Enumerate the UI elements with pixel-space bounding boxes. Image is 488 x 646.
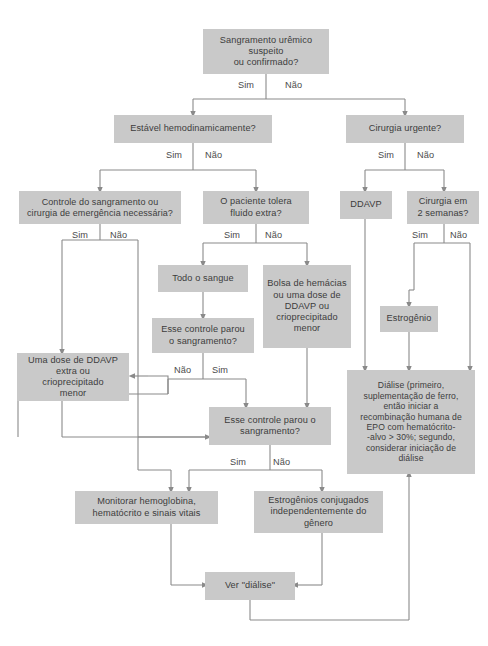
edge-label-cirurgia-sim: Sim <box>378 150 394 160</box>
node-estavel-hemodinamicamente: Estável hemodinamicamente? <box>114 115 272 143</box>
edge-label-controle-nao: Não <box>110 230 127 240</box>
node-cirurgia-2-semanas: Cirurgia em 2 semanas? <box>407 191 479 224</box>
edge-label-estavel-nao: Não <box>205 150 222 160</box>
flowchart-canvas: Sangramento urêmico suspeito ou confirma… <box>0 0 488 646</box>
edge-label-semanas-nao: Não <box>450 230 467 240</box>
edge-label-start-sim: Sim <box>238 80 254 90</box>
edge-label-start-nao: Não <box>285 80 302 90</box>
node-monitorar-hemoglobina: Monitorar hemoglobina, hematócrito e sin… <box>75 491 218 524</box>
edge-label-semanas-sim: Sim <box>412 230 428 240</box>
edge-label-esse2-sim: Sim <box>230 457 246 467</box>
node-cirurgia-urgente: Cirurgia urgente? <box>346 115 464 143</box>
node-tolera-fluido: O paciente tolera fluido extra? <box>203 191 309 224</box>
node-start: Sangramento urêmico suspeito ou confirma… <box>203 29 329 74</box>
edge-label-esse1-sim: Sim <box>212 365 228 375</box>
edge-label-controle-sim: Sim <box>72 230 88 240</box>
edge-label-esse1-nao: Não <box>174 365 191 375</box>
node-esse-controle-parou-2: Esse controle parou o sangramento? <box>209 407 331 445</box>
edge-label-esse2-nao: Não <box>273 457 290 467</box>
node-dialise-detalhada: Diálise (primeiro, suplementação de ferr… <box>347 370 475 474</box>
node-estrogenio: Estrogênio <box>380 306 438 332</box>
edge-label-tolera-nao: Não <box>265 230 282 240</box>
edge-label-tolera-sim: Sim <box>224 230 240 240</box>
node-ddavp: DDAVP <box>340 191 392 219</box>
node-bolsa-hemacias: Bolsa de hemácias ou uma dose de DDAVP o… <box>263 265 351 348</box>
node-estrogenios-conjugados: Estrogênios conjugados independentemente… <box>254 491 383 533</box>
edge-label-estavel-sim: Sim <box>166 150 182 160</box>
node-uma-dose-ddavp: Uma dose de DDAVP extra ou crioprecipita… <box>17 353 129 401</box>
node-todo-o-sangue: Todo o sangue <box>158 265 248 292</box>
edge-label-cirurgia-nao: Não <box>417 150 434 160</box>
node-controle-sangramento: Controle do sangramento ou cirurgia de e… <box>19 191 181 224</box>
node-ver-dialise: Ver "diálise" <box>205 572 295 600</box>
node-esse-controle-parou-1: Esse controle parou o sangramento? <box>152 318 254 353</box>
